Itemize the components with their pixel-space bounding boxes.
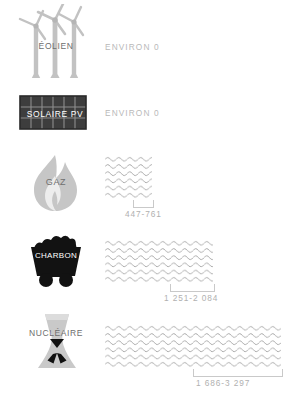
range-bracket-charbon xyxy=(170,284,215,292)
energy-row-eolien: ÉOLIEN ENVIRON 0 xyxy=(0,4,288,84)
water-wave-block-charbon xyxy=(105,240,213,285)
energy-value-charbon: 1 251-2 084 xyxy=(164,293,218,303)
energy-value-eolien: ENVIRON 0 xyxy=(105,42,160,52)
water-wave-block-nucleaire xyxy=(105,325,281,370)
gas-flame-icon: GAZ xyxy=(14,152,98,214)
solar-panel-icon: SOLAIRE PV xyxy=(14,90,98,134)
energy-value-solaire-pv: ENVIRON 0 xyxy=(105,108,160,118)
energy-row-nucleaire: NUCLÉAIRE 1 686-3 297 xyxy=(0,310,288,395)
energy-row-solaire-pv: SOLAIRE PV ENVIRON 0 xyxy=(0,90,288,140)
water-wave-block-gaz xyxy=(105,156,152,201)
energy-row-charbon: CHARBON 1 251-2 084 xyxy=(0,232,288,302)
range-bracket-nucleaire xyxy=(193,369,283,377)
energy-row-gaz: GAZ 447-761 xyxy=(0,152,288,227)
energy-value-nucleaire: 1 686-3 297 xyxy=(196,378,250,388)
nuclear-tower-icon: NUCLÉAIRE xyxy=(14,310,98,376)
coal-cart-icon: CHARBON xyxy=(14,232,98,292)
wind-turbine-icon: ÉOLIEN xyxy=(14,4,98,78)
energy-value-gaz: 447-761 xyxy=(125,209,162,219)
range-bracket-gaz xyxy=(133,200,154,208)
